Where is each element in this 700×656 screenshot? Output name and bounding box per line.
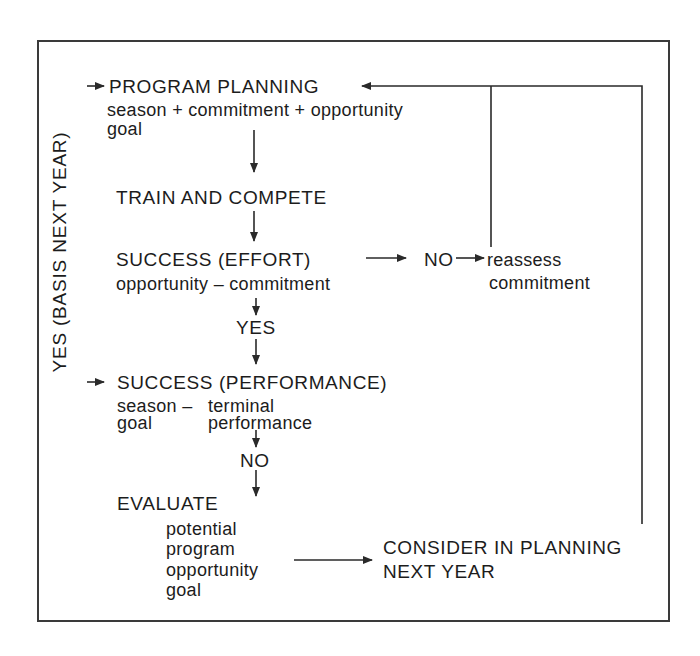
- program-planning-formula: season + commitment + opportunity: [107, 101, 403, 119]
- evaluate-item-goal: goal: [166, 581, 201, 599]
- consider-line2: NEXT YEAR: [383, 562, 495, 581]
- decision-yes: YES: [236, 318, 276, 337]
- program-planning-goal: goal: [107, 120, 142, 138]
- evaluate-title: EVALUATE: [117, 494, 218, 513]
- consider-line1: CONSIDER IN PLANNING: [383, 538, 622, 557]
- success-effort-formula: opportunity – commitment: [116, 275, 330, 293]
- success-performance-goal: goal: [117, 414, 152, 432]
- train-compete-title: TRAIN AND COMPETE: [116, 188, 327, 207]
- decision-no-performance: NO: [240, 451, 270, 470]
- evaluate-item-program: program: [166, 540, 235, 558]
- evaluate-item-potential: potential: [166, 520, 237, 538]
- program-planning-title: PROGRAM PLANNING: [109, 77, 319, 96]
- success-effort-title: SUCCESS (EFFORT): [116, 250, 311, 269]
- reassess-line2: commitment: [489, 274, 590, 292]
- success-performance-performance: performance: [208, 414, 312, 432]
- side-label-yes-basis-next-year: YES (BASIS NEXT YEAR): [49, 131, 71, 372]
- decision-no-effort: NO: [424, 250, 454, 269]
- success-performance-title: SUCCESS (PERFORMANCE): [117, 373, 387, 392]
- reassess-line1: reassess: [487, 251, 561, 269]
- consider-loop-line: [362, 86, 642, 524]
- evaluate-item-opportunity: opportunity: [166, 561, 258, 579]
